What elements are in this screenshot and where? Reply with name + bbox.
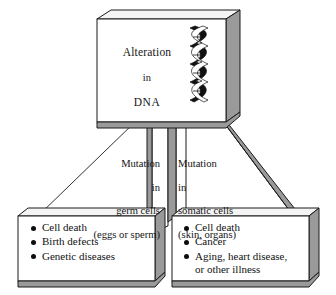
list-item: Cell death bbox=[31, 221, 147, 234]
outcome-text: Cell death bbox=[42, 221, 147, 234]
top-box-line-3: DNA bbox=[106, 96, 188, 109]
top-box-line-1: Alteration bbox=[106, 46, 188, 59]
bullet-icon bbox=[184, 226, 189, 231]
branch-label-germ-line-2: in bbox=[56, 182, 160, 194]
bullet-icon bbox=[31, 226, 36, 231]
top-box-label: Alteration in DNA bbox=[106, 33, 188, 122]
branch-label-germ-line-3: germ cells bbox=[56, 205, 160, 217]
bullet-icon bbox=[184, 240, 189, 245]
outcome-text-continued: or other illness bbox=[195, 263, 314, 276]
list-item: Genetic diseases bbox=[31, 250, 147, 263]
list-item: Aging, heart disease, or other illness bbox=[184, 250, 314, 276]
branch-label-germ-line-1: Mutation bbox=[56, 158, 160, 170]
bullet-icon bbox=[184, 254, 189, 259]
outcome-text: Cell death bbox=[195, 221, 314, 234]
top-box-line-2: in bbox=[106, 72, 188, 84]
list-item: Cell death bbox=[184, 221, 314, 234]
branch-label-somatic-line-1: Mutation bbox=[178, 158, 290, 170]
dna-alteration-diagram: .face { fill:#ffffff; stroke:#1a1a1a; st… bbox=[0, 0, 336, 295]
branch-label-somatic-line-3: somatic cells bbox=[178, 205, 290, 217]
bullet-icon bbox=[31, 254, 36, 259]
list-item: Birth defects bbox=[31, 235, 147, 248]
bullet-icon bbox=[31, 240, 36, 245]
outcome-text: Cancer bbox=[195, 235, 314, 248]
outcome-text: Aging, heart disease, bbox=[195, 250, 314, 263]
outcome-text: Birth defects bbox=[42, 235, 147, 248]
outcome-text: Genetic diseases bbox=[42, 250, 147, 263]
list-item: Cancer bbox=[184, 235, 314, 248]
branch-label-somatic-line-2: in bbox=[178, 182, 290, 194]
germ-outcomes-list: Cell death Birth defects Genetic disease… bbox=[31, 221, 147, 264]
somatic-outcomes-list: Cell death Cancer Aging, heart disease, … bbox=[184, 221, 314, 277]
